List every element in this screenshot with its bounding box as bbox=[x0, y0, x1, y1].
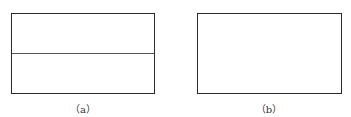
panel-b-caption: （b） bbox=[249, 101, 289, 116]
panel-a-rectangle bbox=[11, 13, 155, 94]
panel-b-rectangle bbox=[197, 13, 342, 94]
panel-a-caption: （a） bbox=[63, 101, 103, 116]
panel-a-horizontal-divider bbox=[12, 53, 154, 54]
